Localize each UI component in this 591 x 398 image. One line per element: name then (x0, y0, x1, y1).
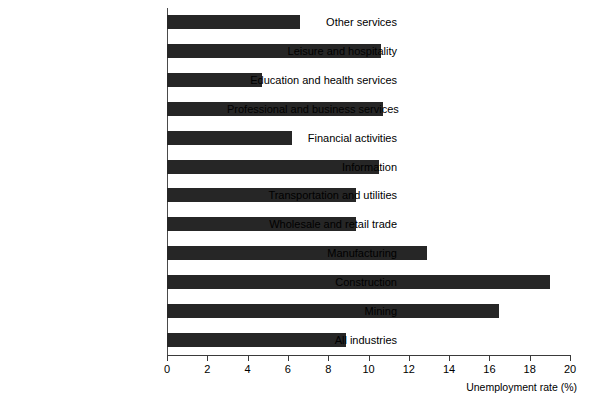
bar-row: Construction (167, 268, 570, 297)
category-label: Manufacturing (227, 246, 397, 260)
x-axis-tick (570, 356, 571, 361)
unemployment-rate-bar-chart: Other servicesLeisure and hospitalityEdu… (0, 0, 591, 398)
bar-row: Mining (167, 297, 570, 326)
x-axis-tick (288, 356, 289, 361)
bar-row: Financial activities (167, 124, 570, 153)
category-label: Wholesale and retail trade (227, 217, 397, 231)
category-label: Transportation and utilities (227, 188, 397, 202)
x-axis-tick (449, 356, 450, 361)
x-axis-tick (248, 356, 249, 361)
x-axis-tick-label: 4 (233, 363, 263, 376)
x-axis-tick-label: 2 (192, 363, 222, 376)
bar-row: Wholesale and retail trade (167, 210, 570, 239)
category-label: Financial activities (227, 131, 397, 145)
x-axis-tick-label: 18 (515, 363, 545, 376)
x-axis-tick (489, 356, 490, 361)
category-label: Mining (227, 304, 397, 318)
bar-row: Leisure and hospitality (167, 37, 570, 66)
x-axis-tick (369, 356, 370, 361)
bar-row: Professional and business services (167, 95, 570, 124)
bar-row: Manufacturing (167, 239, 570, 268)
category-label: All industries (227, 333, 397, 347)
bar-row: Other services (167, 8, 570, 37)
x-axis-title: Unemployment rate (%) (466, 381, 577, 393)
bar-row: All industries (167, 326, 570, 355)
bar-row: Transportation and utilities (167, 181, 570, 210)
x-axis-tick-label: 12 (394, 363, 424, 376)
x-axis-tick (207, 356, 208, 361)
x-axis-tick (530, 356, 531, 361)
bar-row: Information (167, 153, 570, 182)
x-axis-tick-label: 8 (313, 363, 343, 376)
category-label: Information (227, 160, 397, 174)
category-label: Professional and business services (227, 102, 397, 116)
category-label: Leisure and hospitality (227, 44, 397, 58)
category-label: Construction (227, 275, 397, 289)
x-axis-tick-label: 16 (474, 363, 504, 376)
x-axis-tick-label: 10 (354, 363, 384, 376)
x-axis-tick-label: 14 (434, 363, 464, 376)
category-label: Education and health services (227, 73, 397, 87)
x-axis-tick-label: 0 (152, 363, 182, 376)
x-axis-tick-label: 6 (273, 363, 303, 376)
x-axis-tick-label: 20 (555, 363, 585, 376)
category-label: Other services (227, 15, 397, 29)
x-axis-tick (167, 356, 168, 361)
x-axis-tick (409, 356, 410, 361)
bar-row: Education and health services (167, 66, 570, 95)
x-axis-tick (328, 356, 329, 361)
